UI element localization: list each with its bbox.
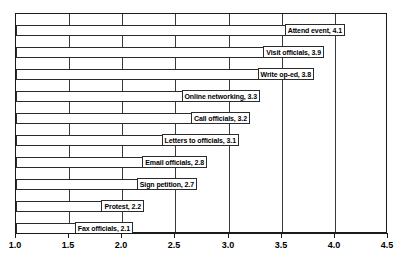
x-tick-label: 1.5 <box>62 240 75 250</box>
bar-value-label: Protest, 2.2 <box>101 200 144 212</box>
x-tick-label: 2.0 <box>115 240 128 250</box>
x-tick-label: 2.5 <box>168 240 181 250</box>
x-tick-label: 3.5 <box>275 240 288 250</box>
bars-layer: Attend event, 4.1Visit officials, 3.9Wri… <box>16 14 386 232</box>
x-axis <box>15 233 387 234</box>
bar-value-label: Letters to officials, 3.1 <box>162 134 239 146</box>
x-tick-mark <box>68 233 69 238</box>
x-tick-mark <box>228 233 229 238</box>
bar-value-label: Sign petition, 2.7 <box>137 178 197 190</box>
bar-row[interactable]: Attend event, 4.1 <box>16 25 388 36</box>
x-tick-mark <box>15 233 16 238</box>
bar-value-label: Call officials, 3.2 <box>191 112 250 124</box>
plot-area: Attend event, 4.1Visit officials, 3.9Wri… <box>15 13 387 233</box>
x-tick-mark <box>121 233 122 238</box>
x-tick-label: 3.0 <box>222 240 235 250</box>
bar-row[interactable]: Write op-ed, 3.8 <box>16 69 388 80</box>
bar-row[interactable]: Call officials, 3.2 <box>16 113 388 124</box>
bar-row[interactable]: Letters to officials, 3.1 <box>16 135 388 146</box>
x-tick-mark <box>334 233 335 238</box>
bar-row[interactable]: Email officials, 2.8 <box>16 157 388 168</box>
bar-row[interactable]: Online networking, 3.3 <box>16 91 388 102</box>
bar-chart: Attend event, 4.1Visit officials, 3.9Wri… <box>0 0 403 263</box>
bar-row[interactable]: Protest, 2.2 <box>16 201 388 212</box>
x-tick-label: 1.0 <box>9 240 22 250</box>
bar-value-label: Online networking, 3.3 <box>182 90 260 102</box>
bar-value-label: Write op-ed, 3.8 <box>258 68 314 80</box>
x-tick-mark <box>387 233 388 238</box>
x-tick-label: 4.0 <box>328 240 341 250</box>
x-tick-mark <box>174 233 175 238</box>
bar-row[interactable]: Visit officials, 3.9 <box>16 47 388 58</box>
bar-value-label: Visit officials, 3.9 <box>263 46 324 58</box>
x-tick-label: 4.5 <box>381 240 394 250</box>
bar-value-label: Email officials, 2.8 <box>142 156 207 168</box>
bar-row[interactable]: Sign petition, 2.7 <box>16 179 388 190</box>
bar-value-label: Attend event, 4.1 <box>285 24 345 36</box>
x-tick-mark <box>281 233 282 238</box>
